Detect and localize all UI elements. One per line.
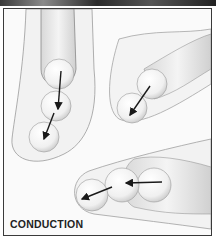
bottom-chain [75, 139, 211, 229]
ball [29, 122, 59, 152]
ball [44, 59, 74, 89]
top-image-strip [0, 0, 216, 6]
ball [137, 69, 167, 99]
ball [105, 168, 139, 202]
middle-chain [110, 29, 211, 123]
illustration [4, 9, 211, 235]
ball [41, 91, 71, 121]
arrow-icon [126, 182, 162, 183]
figure-caption: CONDUCTION [10, 218, 83, 230]
ball [137, 168, 171, 202]
conduction-figure: CONDUCTION [3, 8, 212, 236]
left-chain [12, 9, 95, 161]
